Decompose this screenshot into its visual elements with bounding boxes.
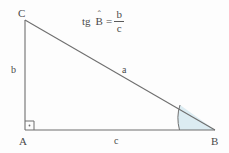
vertex-label-c: C — [18, 8, 26, 19]
formula-numerator: b — [115, 9, 123, 21]
formula-angle-symbol: ˆB — [96, 16, 103, 27]
formula-denominator: c — [116, 22, 123, 34]
side-label-a: a — [122, 65, 126, 75]
formula-equals-sign: = — [106, 16, 112, 27]
side-label-b: b — [11, 65, 16, 75]
tangent-formula: tg ˆB = b c — [82, 9, 124, 34]
side-a-line — [25, 20, 215, 130]
angle-hat-icon: ˆ — [98, 10, 101, 19]
right-angle-dot-icon — [29, 125, 31, 127]
vertex-label-a: A — [19, 136, 27, 147]
side-label-c: c — [114, 136, 118, 146]
vertex-label-b: B — [211, 136, 219, 147]
geometry-figure: C A B b a c tg ˆB = b c — [0, 0, 229, 153]
formula-fraction: b c — [114, 9, 124, 34]
formula-function-name: tg — [82, 16, 91, 27]
